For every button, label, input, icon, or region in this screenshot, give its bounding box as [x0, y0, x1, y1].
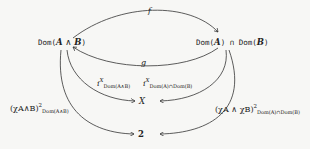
op-cap: ) ∩ [221, 38, 239, 47]
chi-base: (χA ∧ χB) [215, 105, 254, 114]
arrow-f [73, 10, 218, 38]
arrow-chi-right [160, 50, 235, 134]
close-paren: ) [82, 38, 87, 47]
label-chi-left: (χA∧B)2Dom(A∧B) [10, 103, 69, 114]
label-g: g [141, 59, 146, 67]
node-dom-a-and-b: Dom(A ∧ B) [38, 38, 86, 47]
i-sub: Dom(A)∩Dom(B) [149, 83, 192, 89]
arrow-i-left [67, 50, 135, 101]
dom-label: Dom( [196, 38, 214, 47]
chi-base: (χA∧B) [10, 104, 39, 113]
arrow-layer [0, 0, 310, 149]
dom-label: Dom( [239, 38, 257, 47]
label-f: f [148, 7, 151, 15]
chi-sub: Dom(A∧B) [42, 108, 69, 114]
var-a: A [214, 37, 221, 47]
node-x: X [139, 97, 145, 106]
dom-label: Dom( [38, 38, 56, 47]
arrow-i-right [160, 50, 226, 101]
op-and: ∧ [63, 37, 75, 47]
var-b: B [257, 37, 264, 47]
label-i-left: iXDom(A∧B) [97, 78, 130, 89]
var-b: B [74, 37, 81, 47]
label-i-right: iXDom(A)∩Dom(B) [143, 78, 192, 89]
arrow-chi-left [60, 50, 134, 134]
node-two: 2 [138, 130, 144, 139]
node-dom-a-cap-dom-b: Dom(A) ∩ Dom(B) [196, 38, 269, 47]
label-chi-right: (χA ∧ χB)2Dom(A)∩Dom(B) [215, 104, 300, 115]
var-a: A [56, 37, 63, 47]
chi-sub: Dom(A)∩Dom(B) [257, 109, 300, 115]
i-sub: Dom(A∧B) [103, 83, 130, 89]
close-paren: ) [264, 38, 269, 47]
